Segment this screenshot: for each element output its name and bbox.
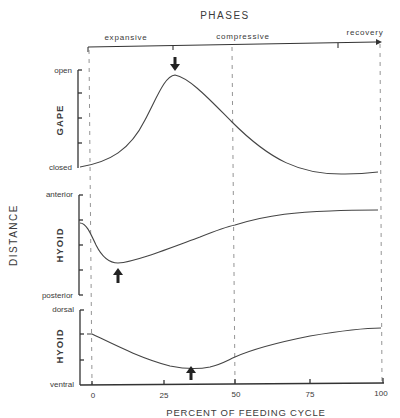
hyoid-dv-panel: dorsal ventral HYOID [50,305,381,389]
x-axis [80,378,384,385]
hyoid-dv-axis-label: HYOID [54,328,65,363]
x-tick-25: 25 [160,391,169,400]
hyoid-dorsal-label: dorsal [52,305,74,314]
arrow-up-icon [113,268,123,283]
hyoid-ap-curve [80,210,378,263]
x-tick-75: 75 [306,390,315,399]
hyoid-ap-axis-label: HYOID [54,227,65,262]
chart-title: PHASES [200,10,250,21]
x-axis-label: PERCENT OF FEEDING CYCLE [166,407,325,418]
phase-boundaries [89,44,382,384]
hyoid-posterior-label: posterior [42,291,73,300]
gape-axis-label: GAPE [54,105,65,136]
y-axis-label: DISTANCE [8,204,19,266]
phase-label-compressive: compressive [216,32,270,41]
hyoid-ap-panel: anterior posterior HYOID [42,190,378,300]
x-tick-50: 50 [232,390,241,399]
hyoid-anterior-label: anterior [46,190,73,199]
phase-label-recovery: recovery [346,28,383,37]
gape-curve [80,75,378,174]
x-tick-0: 0 [91,391,96,400]
arrowhead-icon [376,39,382,45]
feeding-cycle-chart: PHASES expansive compressive recovery DI… [0,0,400,418]
gape-open-label: open [54,66,72,75]
hyoid-ventral-label: ventral [50,380,74,389]
gape-panel: open closed GAPE [49,57,378,174]
gape-closed-label: closed [49,163,72,172]
hyoid-dv-curve [87,328,381,368]
phase-label-expansive: expansive [104,33,147,42]
x-tick-100: 100 [374,389,388,398]
arrow-down-icon [170,57,180,71]
